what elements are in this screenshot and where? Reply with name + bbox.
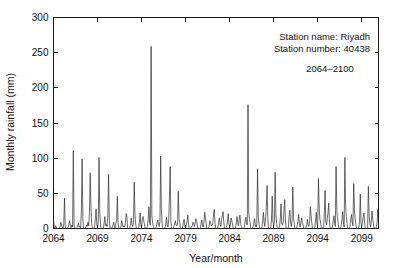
y-tick-label: 50 bbox=[37, 188, 49, 199]
y-tick-label: 150 bbox=[32, 118, 49, 129]
x-tick-label: 2069 bbox=[86, 233, 109, 244]
x-tick-label: 2084 bbox=[219, 233, 242, 244]
x-tick-label: 2089 bbox=[263, 233, 286, 244]
x-tick-label: 2094 bbox=[307, 233, 330, 244]
y-tick-label: 100 bbox=[32, 153, 49, 164]
chart-canvas: 050100150200250300 206420692074207920842… bbox=[0, 0, 393, 268]
y-axis-title: Monthly rainfall (mm) bbox=[4, 73, 16, 171]
annotation-station-name: Station name: Riyadh bbox=[279, 31, 370, 42]
y-tick-label: 200 bbox=[32, 82, 49, 93]
annotation-station-number: Station number: 40438 bbox=[274, 43, 370, 54]
y-tick-label: 300 bbox=[32, 12, 49, 23]
x-tick-label: 2099 bbox=[351, 233, 374, 244]
x-tick-label: 2079 bbox=[174, 233, 197, 244]
rainfall-chart-figure: 050100150200250300 206420692074207920842… bbox=[0, 0, 393, 268]
x-axis-title: Year/month bbox=[189, 252, 242, 264]
y-tick-label: 250 bbox=[32, 47, 49, 58]
annotation-period: 2064–2100 bbox=[306, 63, 354, 74]
x-tick-label: 2074 bbox=[130, 233, 153, 244]
x-tick-label: 2064 bbox=[42, 233, 65, 244]
